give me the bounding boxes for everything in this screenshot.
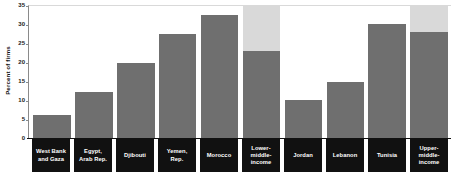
bar	[75, 92, 113, 138]
bar	[117, 63, 155, 138]
category-label-text: Yemen,Rep.	[167, 148, 188, 162]
category-label: Lower-middle-income	[242, 139, 280, 172]
category-label: Morocco	[200, 139, 238, 172]
category-label-text: Lebanon	[333, 152, 358, 159]
bar	[327, 82, 365, 138]
category-label: Tunisia	[368, 139, 406, 172]
category-label-band: West Bankand GazaEgypt,Arab Rep.Djibouti…	[28, 139, 451, 172]
category-label: Upper-middle-income	[410, 139, 448, 172]
category-label-text: West Bankand Gaza	[36, 148, 66, 162]
category-label-text: Djibouti	[124, 152, 146, 159]
y-axis-title-text: Percent of firms	[4, 46, 11, 95]
bar-slot	[243, 6, 281, 138]
bar-slot	[117, 6, 155, 138]
category-label-text: Lower-middle-income	[251, 145, 272, 167]
bar-chart: Percent of firms 35302520151050 West Ban…	[0, 0, 453, 175]
category-label: Egypt,Arab Rep.	[74, 139, 112, 172]
category-label: West Bankand Gaza	[32, 139, 70, 172]
y-axis-tick-labels: 35302520151050	[14, 0, 27, 145]
y-tick-label: 25	[18, 40, 25, 46]
y-axis-title: Percent of firms	[0, 0, 14, 140]
bar-slot	[33, 6, 71, 138]
bar	[285, 100, 323, 138]
bar-slot	[75, 6, 113, 138]
category-label-text: Egypt,Arab Rep.	[79, 148, 107, 162]
bar	[33, 115, 71, 138]
bar-slot	[410, 6, 448, 138]
y-tick-label: 35	[18, 2, 25, 8]
bar	[410, 32, 448, 138]
y-tick-label: 30	[18, 21, 25, 27]
bar-slot	[159, 6, 197, 138]
category-label-text: Morocco	[207, 152, 232, 159]
category-label: Djibouti	[116, 139, 154, 172]
y-tick-label: 5	[22, 116, 25, 122]
bar	[201, 15, 239, 138]
y-tick-label: 0	[22, 135, 25, 141]
bar	[159, 34, 197, 139]
bar-slot	[201, 6, 239, 138]
y-tick-label: 10	[18, 97, 25, 103]
category-label-text: Tunisia	[377, 152, 397, 159]
category-label-text: Upper-middle-income	[419, 145, 440, 167]
category-label: Yemen,Rep.	[158, 139, 196, 172]
bar	[368, 24, 406, 138]
plot-area	[28, 5, 451, 138]
category-label: Lebanon	[326, 139, 364, 172]
bar	[243, 51, 281, 138]
bar-series	[29, 6, 451, 138]
category-label: Jordan	[284, 139, 322, 172]
category-label-text: Jordan	[293, 152, 313, 159]
y-tick-label: 20	[18, 59, 25, 65]
bar-slot	[368, 6, 406, 138]
y-tick-label: 15	[18, 78, 25, 84]
bar-slot	[285, 6, 323, 138]
bar-slot	[327, 6, 365, 138]
